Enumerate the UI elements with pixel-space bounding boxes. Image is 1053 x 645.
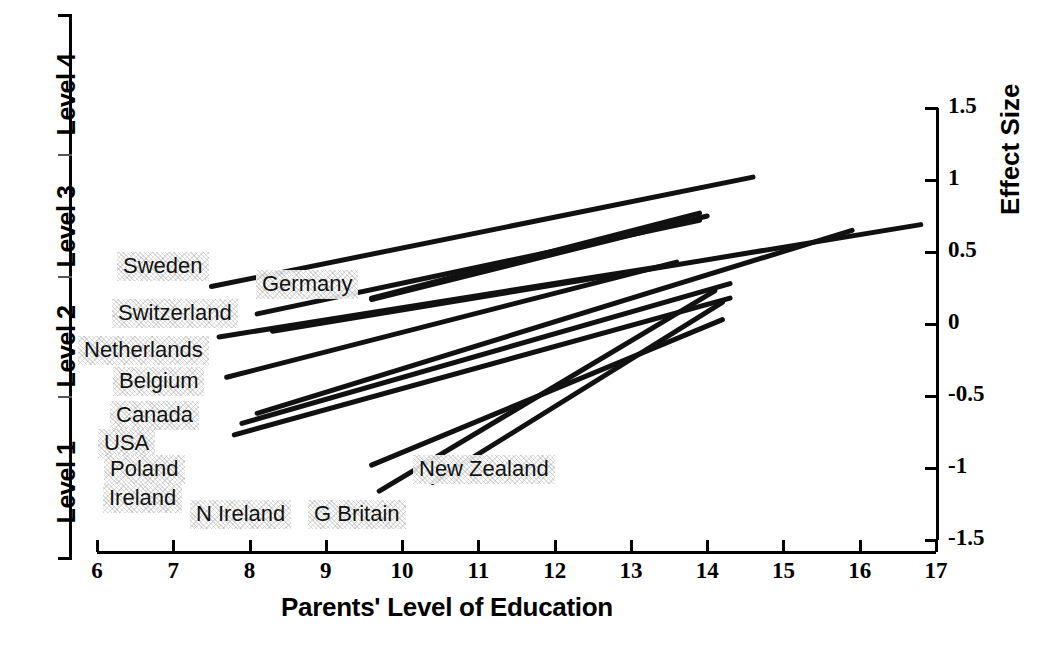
- y-tick-0: [925, 323, 938, 326]
- chart-figure: Level 1 Level 2 Level 3 Level 4 SwedenGe…: [0, 0, 1053, 645]
- country-label-ireland: Ireland: [103, 484, 182, 513]
- y-tick-1: [925, 179, 938, 182]
- x-axis-title: Parents' Level of Education: [97, 592, 797, 623]
- x-tick-16: [859, 540, 862, 552]
- x-tick-label-9: 9: [306, 558, 346, 584]
- x-tick-label-14: 14: [687, 558, 727, 584]
- x-tick-label-15: 15: [763, 558, 803, 584]
- plot-area: SwedenGermanySwitzerlandNetherlandsBelgi…: [0, 0, 1053, 645]
- y-tick--0.5: [925, 395, 938, 398]
- x-tick-7: [172, 540, 175, 552]
- x-tick-label-7: 7: [153, 558, 193, 584]
- y-tick-1.5: [925, 107, 938, 110]
- x-tick-label-8: 8: [230, 558, 270, 584]
- x-tick-label-13: 13: [611, 558, 651, 584]
- x-tick-11: [477, 540, 480, 552]
- trend-line-ireland: [234, 298, 730, 435]
- country-label-new-zealand: New Zealand: [413, 455, 555, 484]
- country-label-germany: Germany: [256, 270, 358, 299]
- x-tick-label-11: 11: [458, 558, 498, 584]
- x-tick-10: [401, 540, 404, 552]
- country-label-usa: USA: [98, 429, 155, 458]
- country-label-g-britain: G Britain: [308, 500, 406, 529]
- trend-line-usa: [257, 230, 852, 413]
- trend-line-poland: [242, 284, 730, 424]
- x-tick-13: [630, 540, 633, 552]
- x-axis-line: [97, 551, 936, 554]
- y-tick--1: [925, 467, 938, 470]
- y-tick--1.5: [925, 539, 938, 542]
- x-tick-label-16: 16: [840, 558, 880, 584]
- country-label-n-ireland: N Ireland: [190, 500, 291, 529]
- country-label-belgium: Belgium: [113, 367, 204, 396]
- y-tick-label--1.5: -1.5: [948, 525, 1018, 551]
- y-tick-label--0.5: -0.5: [948, 381, 1018, 407]
- y-tick-label--1: -1: [948, 453, 1018, 479]
- country-label-netherlands: Netherlands: [78, 336, 209, 365]
- x-tick-label-12: 12: [535, 558, 575, 584]
- country-label-poland: Poland: [104, 455, 185, 484]
- x-tick-label-6: 6: [77, 558, 117, 584]
- trend-line-germany-b: [372, 216, 708, 300]
- x-tick-label-17: 17: [916, 558, 956, 584]
- country-label-canada: Canada: [110, 401, 199, 430]
- x-tick-9: [325, 540, 328, 552]
- x-tick-6: [96, 540, 99, 552]
- trend-line-germany: [372, 213, 700, 298]
- country-label-switzerland: Switzerland: [112, 299, 238, 328]
- trend-line-switzerland: [257, 220, 699, 314]
- y-tick-label-0.5: 0.5: [948, 237, 1018, 263]
- trend-line-canada: [272, 225, 920, 332]
- x-tick-14: [706, 540, 709, 552]
- x-tick-15: [782, 540, 785, 552]
- y-tick-label-0: 0: [948, 309, 1018, 335]
- x-tick-12: [554, 540, 557, 552]
- x-tick-label-10: 10: [382, 558, 422, 584]
- trend-line-g-britain: [372, 320, 723, 465]
- country-label-sweden: Sweden: [117, 252, 209, 281]
- x-tick-8: [249, 540, 252, 552]
- y-axis-title: Effect Size: [995, 0, 1026, 215]
- y-tick-0.5: [925, 251, 938, 254]
